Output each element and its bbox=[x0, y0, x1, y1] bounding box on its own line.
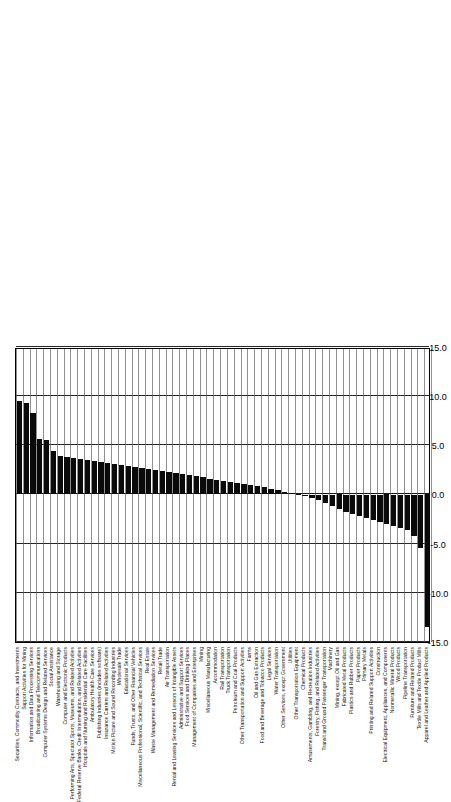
category-label: Funds, Trusts, and Other Financial Vehic… bbox=[131, 647, 136, 746]
category-label: Petroleum and Coal Products bbox=[233, 647, 238, 714]
category-label: Ambulatory Health Care Services bbox=[90, 647, 95, 722]
chart-value-axis-tick-labels: -15.0-10.0-5.00.05.010.015.0 bbox=[433, 348, 451, 643]
category-label: Water Transportation bbox=[274, 647, 279, 694]
category-label: Performing Arts, Spectator Sports, Museu… bbox=[70, 647, 75, 799]
category-label: Legal Services bbox=[267, 647, 272, 680]
category-label: Securities, Commodity Contracts, and Inv… bbox=[15, 647, 20, 761]
category-label: Computer Systems Design and Related Serv… bbox=[43, 647, 48, 757]
category-label: Farms bbox=[247, 647, 252, 661]
chart-category-axis-labels: Securities, Commodity Contracts, and Inv… bbox=[15, 343, 430, 643]
category-label: Paper Products bbox=[356, 647, 361, 682]
category-label: Construction bbox=[376, 647, 381, 676]
category-label: Educational Services bbox=[124, 647, 129, 695]
category-label: Management of Companies and Enterprises bbox=[192, 647, 197, 747]
category-label: Pipeline Transportation bbox=[403, 647, 408, 699]
category-label: Hospitals and Nursing and Residential Ca… bbox=[83, 647, 88, 767]
category-label: Miscellaneous Professional, Scientific, … bbox=[138, 647, 143, 787]
category-label: Fabricated Metal Products bbox=[342, 647, 347, 706]
category-label: Machinery bbox=[328, 647, 333, 671]
category-label: Accommodation bbox=[213, 647, 218, 684]
chart-axis-area: -15.0-10.0-5.00.05.010.015.0 Securities,… bbox=[15, 348, 430, 643]
category-label: Miscellaneous Manufacturing bbox=[206, 647, 211, 713]
category-label: Publishing Industries (includes software… bbox=[97, 647, 102, 738]
category-label: Oil and Gas Extraction bbox=[254, 647, 259, 698]
category-label: Forestry, Fishing, and Related Activitie… bbox=[315, 647, 320, 736]
category-label: Support Activities for Mining bbox=[22, 647, 27, 710]
category-label: Wood Products bbox=[396, 647, 401, 682]
category-label: Wholesale Trade bbox=[117, 647, 122, 685]
category-label: Warehousing and Storage bbox=[56, 647, 61, 706]
category-label: Other Services, except Government bbox=[281, 647, 286, 728]
category-label: Waste Management and Remediation Service… bbox=[151, 647, 156, 753]
category-label: Transit and Ground Passenger Transportat… bbox=[322, 647, 327, 750]
category-label: Electrical Equipment, Appliances, and Co… bbox=[383, 647, 388, 763]
category-label: Insurance Carriers and Related Activitie… bbox=[104, 647, 109, 739]
category-label: Information and Data Processing Services bbox=[29, 647, 34, 742]
category-label: Truck Transportation bbox=[226, 647, 231, 694]
category-label: Apparel and Leather and Applied Products bbox=[424, 647, 429, 743]
category-label: Other Transportation and Support Activit… bbox=[240, 647, 245, 744]
category-label: Administrative and Support Services bbox=[179, 647, 184, 729]
category-label: Printing and Related Support Activities bbox=[369, 647, 374, 734]
category-label: Plastics and Rubber Products bbox=[349, 647, 354, 714]
category-label: Primary Metals bbox=[362, 647, 367, 681]
category-label: Utilities bbox=[288, 647, 293, 663]
category-label: Chemical Products bbox=[301, 647, 306, 690]
category-label: Mining, except Oil and Gas bbox=[335, 647, 340, 708]
category-label: Federal Reserve Banks, Credit Intermedia… bbox=[77, 647, 82, 802]
category-label: Other Transportation Equipment bbox=[294, 647, 299, 719]
category-label: Amusements, Gambling, and Recreation Ind… bbox=[308, 647, 313, 762]
category-label: Furniture and Related Products bbox=[410, 647, 415, 718]
category-label: Rail Transportation bbox=[220, 647, 225, 690]
category-label: Food and Beverage and Tobacco Products bbox=[260, 647, 265, 743]
category-label: Rental and Leasing Services and Lessors … bbox=[172, 647, 177, 787]
category-label: Motion Picture and Sound Recording Indus… bbox=[111, 647, 116, 754]
category-label: Broadcasting and Telecommunications bbox=[36, 647, 41, 734]
category-label: Retail Trade bbox=[158, 647, 163, 674]
category-label: Social Assistance bbox=[49, 647, 54, 687]
category-label: Air Transportation bbox=[165, 647, 170, 687]
category-label: Mining bbox=[199, 647, 204, 662]
category-label: Computer and Electronic Products bbox=[63, 647, 68, 725]
category-label: Nonmetallic Mineral Products bbox=[390, 647, 395, 713]
category-label: Textile Mills and Textile Product Mills bbox=[417, 647, 422, 729]
category-label: Real Estate bbox=[145, 647, 150, 673]
category-label: Food Services and Drinking Places bbox=[185, 647, 190, 726]
